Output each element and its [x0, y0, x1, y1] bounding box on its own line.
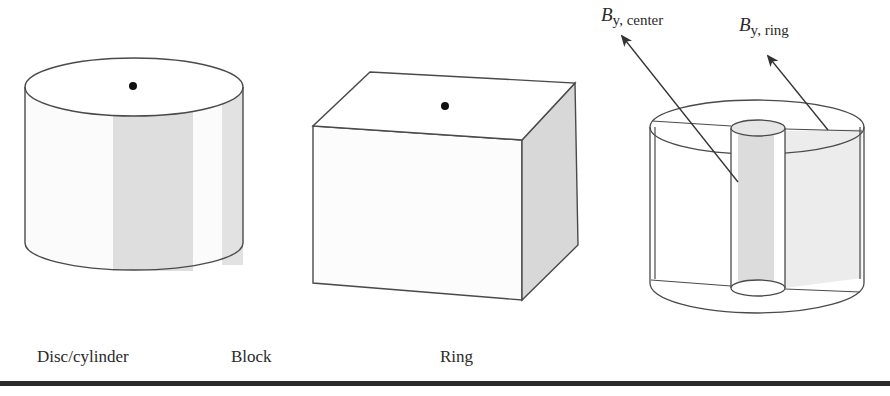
center-arrow	[622, 36, 738, 182]
disc-cylinder-shape	[25, 58, 243, 271]
disc-center-point	[129, 82, 137, 90]
block-label: Block	[231, 347, 272, 367]
annotation-b-center: By, center	[601, 4, 663, 29]
figure-canvas	[0, 0, 890, 396]
ring-arrow	[768, 56, 828, 130]
annotation-b-ring: By, ring	[739, 14, 789, 39]
bottom-rule	[0, 381, 890, 386]
block-center-point	[441, 102, 449, 110]
block-shape	[313, 72, 578, 300]
ring-shape	[622, 36, 864, 313]
ring-label: Ring	[440, 347, 473, 367]
disc-cylinder-label: Disc/cylinder	[37, 347, 129, 367]
